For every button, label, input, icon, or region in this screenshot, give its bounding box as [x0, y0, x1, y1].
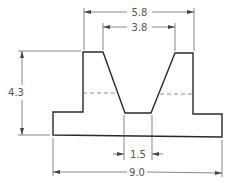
- dimension-top-inner-width: 3.8: [103, 22, 175, 33]
- dimension-top-outer-width: 5.8: [84, 7, 194, 18]
- dimension-notch-bottom-width: 1.5: [113, 149, 163, 160]
- svg-text:1.5: 1.5: [130, 149, 146, 160]
- svg-text:5.8: 5.8: [132, 7, 148, 18]
- dimension-overall-height: 4.3: [8, 51, 24, 135]
- svg-text:3.8: 3.8: [132, 22, 148, 33]
- svg-text:9.0: 9.0: [129, 167, 145, 178]
- svg-text:4.3: 4.3: [8, 87, 24, 98]
- part-outline: [53, 52, 222, 137]
- technical-drawing: 5.8 3.8 4.3 1.5 9.0: [0, 0, 231, 183]
- dimension-overall-width: 9.0: [53, 167, 222, 178]
